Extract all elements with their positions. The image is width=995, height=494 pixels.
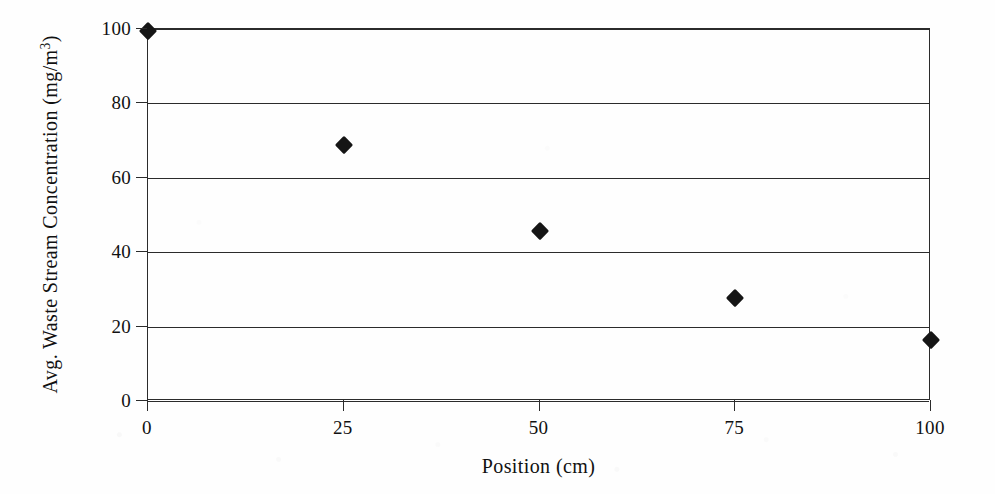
- y-tick-mark-100: [136, 28, 147, 29]
- y-tick-label-0: 0: [121, 391, 131, 410]
- data-point-2: [530, 221, 548, 239]
- x-tick-label-100: 100: [915, 418, 944, 437]
- x-tick-mark-75: [734, 400, 735, 411]
- y-tick-mark-80: [136, 102, 147, 103]
- x-tick-label-25: 25: [333, 418, 353, 437]
- y-axis-tick-group: 020406080100: [0, 28, 147, 400]
- gridline-y-60: [148, 178, 929, 179]
- x-tick-label-75: 75: [724, 418, 744, 437]
- data-point-3: [726, 288, 744, 306]
- y-tick-label-40: 40: [111, 242, 131, 261]
- gridline-y-80: [148, 103, 929, 104]
- x-tick-label-50: 50: [529, 418, 549, 437]
- y-axis-title-exponent: 3: [38, 42, 53, 49]
- y-tick-mark-60: [136, 177, 147, 178]
- gridline-y-20: [148, 327, 929, 328]
- y-axis-title-suffix: ): [39, 35, 61, 42]
- y-tick-label-20: 20: [111, 316, 131, 335]
- y-axis-title-text: Avg. Waste Stream Concentration (mg/m: [39, 49, 61, 393]
- x-axis-title: Position (cm): [147, 455, 930, 478]
- y-axis-title: Avg. Waste Stream Concentration (mg/m3): [38, 14, 63, 414]
- x-tick-mark-25: [343, 400, 344, 411]
- y-tick-mark-0: [136, 400, 147, 401]
- figure-canvas: 020406080100 0255075100 Position (cm) Av…: [0, 0, 995, 494]
- data-point-4: [922, 331, 940, 349]
- y-tick-mark-40: [136, 251, 147, 252]
- gridline-y-40: [148, 252, 929, 253]
- y-tick-label-100: 100: [102, 19, 131, 38]
- y-tick-label-80: 80: [111, 93, 131, 112]
- x-tick-mark-50: [539, 400, 540, 411]
- x-tick-label-0: 0: [142, 418, 152, 437]
- plot-area: [147, 28, 930, 400]
- x-tick-mark-0: [147, 400, 148, 411]
- y-tick-mark-20: [136, 326, 147, 327]
- data-point-1: [335, 136, 353, 154]
- x-axis-tick-group: 0255075100: [147, 400, 930, 450]
- x-tick-mark-100: [930, 400, 931, 411]
- y-tick-label-60: 60: [111, 167, 131, 186]
- gridline-y-100: [148, 29, 929, 30]
